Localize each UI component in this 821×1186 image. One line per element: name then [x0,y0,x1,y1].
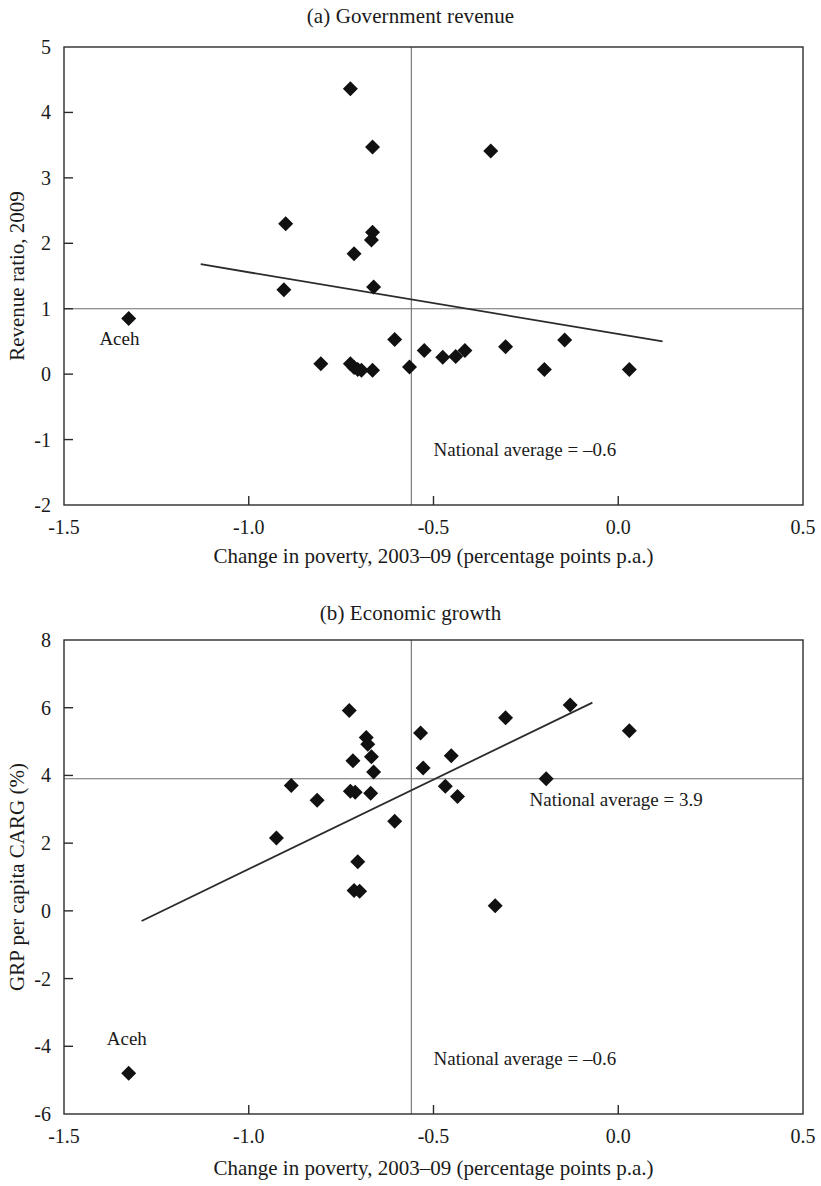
y-tick-label: 0 [41,363,51,385]
data-point-marker [387,814,402,829]
data-point-marker [364,749,379,764]
data-point-marker [284,778,299,793]
y-tick-label: -2 [34,968,51,990]
plot-frame [64,640,803,1114]
data-point-group [121,698,637,1081]
data-point-marker [413,726,428,741]
y-tick-label: 4 [41,101,51,123]
plot-frame [64,47,803,505]
data-point-marker [402,359,417,374]
data-point-marker [622,362,637,377]
y-tick-label: 6 [41,697,51,719]
trend-line [201,264,663,341]
data-point-marker [537,362,552,377]
x-tick-label: -1.0 [233,516,265,538]
data-point-marker [276,282,291,297]
data-point-marker [365,363,380,378]
y-tick-label: 4 [41,764,51,786]
y-tick-label: -4 [34,1035,51,1057]
data-point-marker [498,339,513,354]
y-axis-title: Revenue ratio, 2009 [5,191,29,361]
data-point-marker [416,760,431,775]
data-point-group [121,81,637,377]
panel-a-plot: -2-1012345-1.5-1.0-0.50.00.5National ave… [0,0,821,585]
data-point-marker [450,789,465,804]
data-point-marker [343,81,358,96]
x-axis-title: Change in poverty, 2003–09 (percentage p… [213,544,653,568]
y-tick-label: 5 [41,36,51,58]
x-tick-label: 0.0 [606,516,631,538]
y-tick-label: -6 [34,1103,51,1125]
aceh-point-label: Aceh [107,1028,148,1049]
data-point-marker [363,786,378,801]
aceh-point-label: Aceh [99,328,140,349]
y-tick-label: -1 [34,429,51,451]
data-point-marker [121,311,136,326]
data-point-marker [387,332,402,347]
data-point-marker [483,144,498,159]
panel-government-revenue: (a) Government revenue -2-1012345-1.5-1.… [0,0,821,585]
data-point-marker [310,793,325,808]
reference-line-annotation: National average = –0.6 [434,1048,617,1069]
x-axis-title: Change in poverty, 2003–09 (percentage p… [213,1156,653,1180]
data-point-marker [347,246,362,261]
reference-line-annotation: National average = –0.6 [434,439,617,460]
data-point-marker [435,350,450,365]
y-axis-title: GRP per capita CARG (%) [5,763,29,991]
figure-root: (a) Government revenue -2-1012345-1.5-1.… [0,0,821,1186]
data-point-marker [366,765,381,780]
data-point-marker [417,343,432,358]
y-tick-label: 2 [41,232,51,254]
y-tick-label: -2 [34,494,51,516]
data-point-marker [444,748,459,763]
x-tick-label: -1.0 [233,1125,265,1147]
data-point-marker [278,216,293,231]
data-point-marker [557,333,572,348]
data-point-marker [345,753,360,768]
x-tick-label: -0.5 [418,516,450,538]
data-point-marker [313,356,328,371]
x-tick-label: 0.5 [791,516,816,538]
data-point-marker [365,140,380,155]
y-tick-label: 3 [41,167,51,189]
data-point-marker [488,898,503,913]
data-point-marker [121,1066,136,1081]
x-tick-label: -1.5 [48,516,80,538]
panel-economic-growth: (b) Economic growth -6-4-202468-1.5-1.0-… [0,585,821,1186]
data-point-marker [498,710,513,725]
y-tick-label: 2 [41,832,51,854]
data-point-marker [350,854,365,869]
x-tick-label: -0.5 [418,1125,450,1147]
panel-b-plot: -6-4-202468-1.5-1.0-0.50.00.5National av… [0,585,821,1186]
data-point-marker [539,771,554,786]
data-point-marker [438,779,453,794]
x-tick-label: -1.5 [48,1125,80,1147]
x-tick-label: 0.0 [606,1125,631,1147]
y-tick-label: 8 [41,629,51,651]
reference-line-annotation: National average = 3.9 [530,789,703,810]
y-tick-label: 0 [41,900,51,922]
y-tick-label: 1 [41,298,51,320]
data-point-marker [269,831,284,846]
data-point-marker [342,703,357,718]
x-tick-label: 0.5 [791,1125,816,1147]
data-point-marker [622,723,637,738]
